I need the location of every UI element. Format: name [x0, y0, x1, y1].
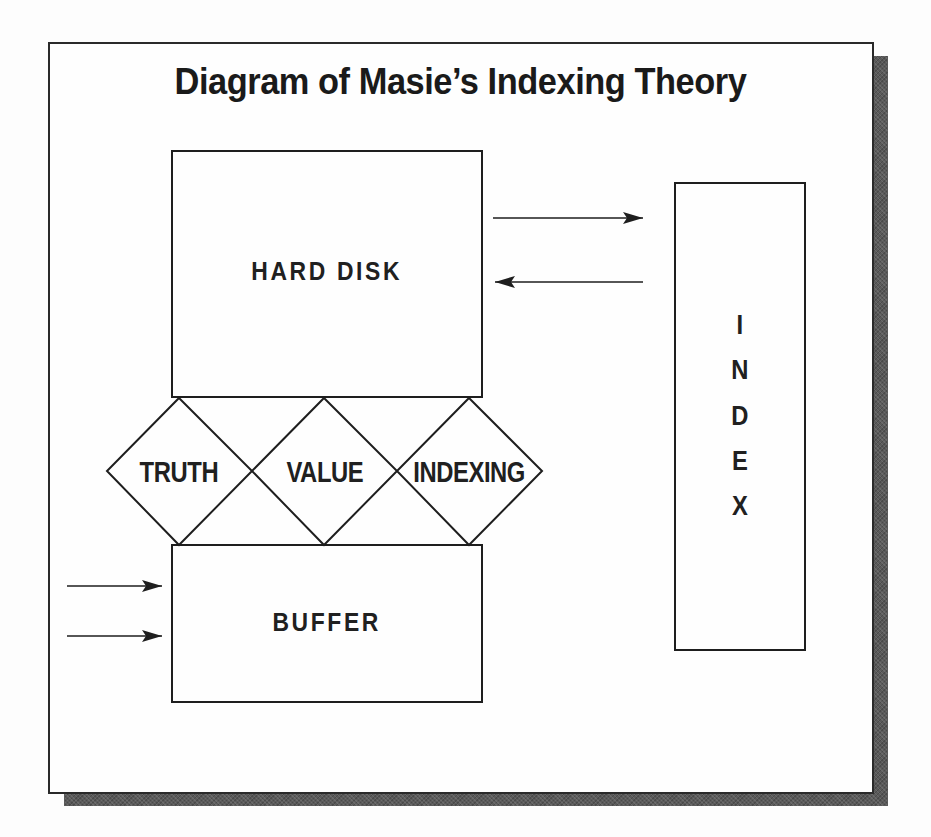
indexing-label: INDEXING — [399, 456, 539, 488]
truth-label: TRUTH — [109, 456, 249, 488]
value-label: VALUE — [255, 456, 395, 488]
diagram-canvas — [0, 0, 931, 837]
index-letter-d: D — [720, 401, 760, 431]
index-letter-x: X — [720, 491, 760, 521]
index-letter-n: N — [720, 355, 760, 385]
buffer-label: BUFFER — [172, 607, 482, 637]
indexing-label-text: INDEXING — [413, 456, 525, 488]
hard-disk-label-text: HARD DISK — [252, 256, 403, 286]
value-label-text: VALUE — [287, 456, 364, 488]
buffer-label-text: BUFFER — [273, 607, 382, 637]
hard-disk-label: HARD DISK — [172, 256, 482, 286]
index-letter-i: I — [720, 310, 760, 340]
index-letter-e: E — [720, 446, 760, 476]
truth-label-text: TRUTH — [140, 456, 219, 488]
